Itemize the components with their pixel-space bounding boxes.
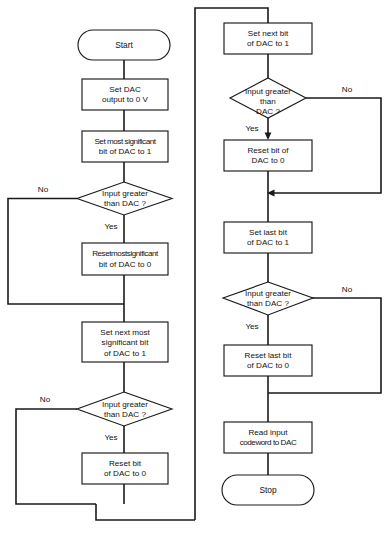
- read-input-line2: codeword to DAC: [240, 438, 297, 447]
- node-reset-last-bit[interactable]: Reset last bit of DAC to 0: [224, 345, 312, 376]
- read-input-line1: Read input: [248, 428, 288, 437]
- reset-msb-line1: Resetmostsignificant: [92, 249, 159, 258]
- set-dac-zero-line1: Set DAC: [109, 85, 141, 94]
- decision-next-bit-line1: Input greater: [245, 87, 291, 96]
- decision-last-bit-line2: than DAC ?: [247, 299, 289, 308]
- reset-last-bit-line2: of DAC to 0: [247, 361, 289, 370]
- edge-label-yes-4: Yes: [245, 322, 258, 331]
- decision-last-bit-line1: Input greater: [245, 289, 291, 298]
- node-read-input[interactable]: Read input codeword to DAC: [224, 422, 312, 453]
- reset-msb-line2: bit of DAC to 0: [99, 260, 152, 269]
- edge-label-yes-1: Yes: [104, 222, 117, 231]
- node-decision-last-bit[interactable]: Input greater than DAC ?: [223, 282, 313, 315]
- set-msb-line1: Set most significant: [94, 137, 156, 146]
- node-start[interactable]: Start: [78, 30, 170, 60]
- decision-msb-line1: Input greater: [102, 189, 148, 198]
- connector-bottom-rail-to-riser: [96, 504, 195, 520]
- set-dac-zero-line2: output to 0 V: [102, 95, 149, 104]
- arrowhead-decision3-yes: [265, 133, 272, 141]
- node-set-next-bit[interactable]: Set next bit of DAC to 1: [224, 23, 312, 54]
- set-last-bit-line2: of DAC to 1: [247, 238, 289, 247]
- node-reset-bit-right[interactable]: Reset bit of DAC to 0: [224, 140, 312, 171]
- reset-bit-left-line1: Reset bit: [109, 459, 142, 468]
- edge-label-no-4: No: [342, 285, 353, 294]
- reset-bit-right-line1: Reset bit of: [248, 146, 290, 155]
- node-reset-bit-left[interactable]: Reset bit of DAC to 0: [82, 453, 168, 484]
- set-next-msb-line3: of DAC to 1: [104, 349, 146, 358]
- node-decision-msb[interactable]: Input greater than DAC ?: [77, 182, 172, 215]
- reset-msb-shape: [82, 243, 168, 275]
- stop-label: Stop: [259, 485, 277, 495]
- set-msb-line2: bit of DAC to 1: [99, 147, 152, 156]
- edge-label-yes-3: Yes: [245, 124, 258, 133]
- decision-next-bit-line3: DAC ?: [256, 107, 280, 116]
- edge-label-no-3: No: [342, 85, 353, 94]
- flowchart-canvas: Start Set DAC output to 0 V Set most sig…: [0, 0, 389, 535]
- set-next-bit-line2: of DAC to 1: [247, 39, 289, 48]
- edge-label-no-2: No: [40, 395, 51, 404]
- node-set-msb[interactable]: Set most significant bit of DAC to 1: [82, 131, 168, 162]
- reset-bit-left-line2: of DAC to 0: [104, 469, 146, 478]
- node-stop[interactable]: Stop: [222, 475, 314, 505]
- node-set-last-bit[interactable]: Set last bit of DAC to 1: [224, 222, 312, 253]
- decision-next-msb-line2: than DAC ?: [104, 410, 146, 419]
- decision-next-msb-line1: Input greater: [102, 400, 148, 409]
- reset-last-bit-line1: Reset last bit: [245, 351, 293, 360]
- set-next-bit-line1: Set next bit: [248, 29, 289, 38]
- set-next-msb-line2: significant bit: [102, 338, 150, 347]
- start-label: Start: [115, 40, 133, 50]
- connector-group-right: [265, 54, 381, 475]
- node-decision-next-msb[interactable]: Input greater than DAC ?: [77, 392, 172, 426]
- set-last-bit-line1: Set last bit: [249, 228, 288, 237]
- node-set-dac-zero[interactable]: Set DAC output to 0 V: [82, 79, 168, 110]
- reset-bit-right-line2: DAC to 0: [252, 156, 285, 165]
- decision-next-bit-line2: than: [260, 97, 276, 106]
- node-reset-msb[interactable]: Resetmostsignificant bit of DAC to 0: [82, 243, 168, 275]
- node-decision-next-bit[interactable]: Input greater than DAC ?: [230, 78, 306, 118]
- flowchart-svg: Start Set DAC output to 0 V Set most sig…: [0, 0, 389, 535]
- edge-label-yes-2: Yes: [104, 433, 117, 442]
- edge-label-no-1: No: [38, 185, 49, 194]
- set-next-msb-line1: Set next most: [100, 328, 150, 337]
- decision-msb-line2: than DAC ?: [104, 199, 146, 208]
- node-set-next-msb[interactable]: Set next most significant bit of DAC to …: [82, 322, 168, 362]
